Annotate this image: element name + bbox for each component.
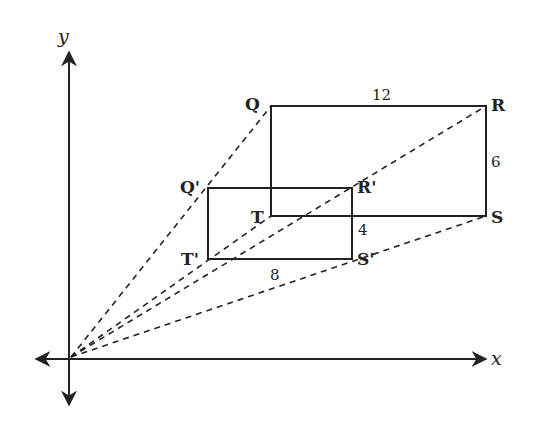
side-length-t-prime-s-prime: 8 [270,266,280,284]
side-length-r-prime-s-prime: 4 [358,221,368,239]
vertex-label-s: S [491,207,503,227]
vertex-label-q-prime: Q' [180,177,200,197]
vertex-label-q: Q [245,94,260,114]
vertex-label-t: T [251,207,264,227]
ray-to-q [71,106,271,357]
vertex-label-t-prime: T' [181,249,199,269]
ray-to-s [71,216,486,357]
ray-to-t [71,216,271,357]
ray-to-r [71,106,486,357]
dilation-rays [71,106,486,357]
dilation-diagram: x y Q R S T Q' R' S' T' 12 6 8 4 [0,0,534,423]
vertex-label-s-prime: S' [357,249,374,269]
x-axis-label: x [491,347,502,369]
y-axis-label: y [57,25,69,47]
vertex-label-r: R [491,95,506,115]
side-length-qr: 12 [372,86,391,104]
side-length-rs: 6 [491,153,501,171]
rectangle-q-prime-r-prime-s-prime-t-prime [208,188,352,259]
vertex-label-r-prime: R' [357,177,376,197]
rectangle-qrst [271,106,486,216]
